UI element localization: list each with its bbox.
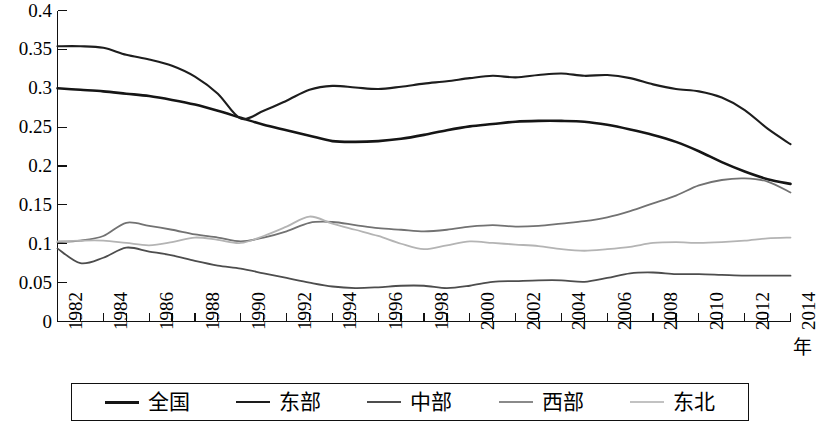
- x-tick-label: 1988: [203, 292, 222, 330]
- x-tick-label: 1994: [340, 292, 359, 330]
- legend-item[interactable]: 中部: [367, 392, 452, 413]
- legend-item-label: 西部: [542, 392, 584, 413]
- legend-item-label: 东部: [279, 392, 321, 413]
- legend-line-swatch: [105, 401, 139, 404]
- x-axis-unit-label: 年: [793, 338, 812, 357]
- legend-line-swatch: [236, 401, 270, 403]
- legend-item[interactable]: 全国: [105, 392, 190, 413]
- legend-item-label: 全国: [148, 392, 190, 413]
- x-tick-label: 1992: [295, 292, 314, 330]
- line-chart: 00.050.10.150.20.250.30.350.4 1982198419…: [0, 0, 821, 424]
- x-tick-label: 2010: [707, 292, 726, 330]
- x-tick-label: 2000: [478, 292, 497, 330]
- x-tick-label: 1990: [249, 292, 268, 330]
- legend-line-swatch: [630, 401, 664, 403]
- x-tick-label: 2002: [524, 292, 543, 330]
- x-tick-label: 1986: [157, 292, 176, 330]
- x-tick-label: 1996: [386, 292, 405, 330]
- x-tick-label: 1984: [111, 292, 130, 330]
- legend-item[interactable]: 东北: [630, 392, 715, 413]
- x-tick-label: 2012: [753, 292, 772, 330]
- legend-line-swatch: [367, 401, 401, 403]
- legend-item[interactable]: 西部: [499, 392, 584, 413]
- x-tick-label: 2014: [799, 292, 818, 330]
- chart-legend: 全国东部中部西部东北: [71, 383, 749, 421]
- legend-line-swatch: [499, 401, 533, 403]
- x-tick-label: 1998: [432, 292, 451, 330]
- x-tick-label: 2004: [569, 292, 588, 330]
- x-tick-label: 2008: [661, 292, 680, 330]
- x-axis-tick-labels: 1982198419861988199019921994199619982000…: [0, 0, 821, 380]
- x-tick-label: 1982: [66, 292, 85, 330]
- legend-item-label: 中部: [410, 392, 452, 413]
- x-tick-label: 2006: [615, 292, 634, 330]
- legend-item[interactable]: 东部: [236, 392, 321, 413]
- legend-item-label: 东北: [673, 392, 715, 413]
